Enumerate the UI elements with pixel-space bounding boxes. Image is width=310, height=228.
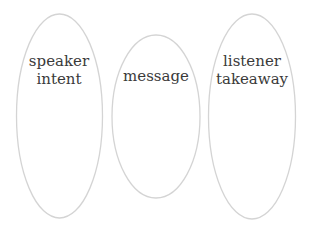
speaker-intent-oval: [17, 14, 103, 218]
message-label: message: [123, 67, 189, 85]
node-listener-takeaway: listener takeaway: [209, 14, 296, 219]
listener-takeaway-label-line2: takeaway: [216, 70, 289, 88]
node-message: message: [112, 35, 200, 198]
speaker-intent-label-line2: intent: [36, 70, 81, 88]
communication-diagram: speaker intent message listener takeaway: [0, 0, 310, 228]
node-speaker-intent: speaker intent: [17, 14, 103, 218]
listener-takeaway-oval: [209, 14, 296, 219]
speaker-intent-label-line1: speaker: [29, 52, 90, 70]
message-oval: [112, 35, 200, 198]
listener-takeaway-label-line1: listener: [223, 52, 282, 70]
